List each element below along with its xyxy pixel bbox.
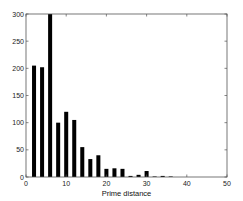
bar-16	[88, 159, 92, 177]
x-tick-label: 10	[62, 180, 70, 187]
bars-group	[32, 14, 173, 177]
bar-8	[56, 123, 60, 177]
y-tick-label: 200	[12, 65, 24, 72]
bar-6	[48, 14, 52, 177]
y-tick-label: 250	[12, 38, 24, 45]
bar-2	[32, 66, 36, 177]
x-tick-label: 50	[223, 180, 231, 187]
x-tick-label: 40	[183, 180, 191, 187]
bar-10	[64, 112, 68, 177]
y-tick-label: 100	[12, 119, 24, 126]
y-tick-label: 150	[12, 92, 24, 99]
y-tick-label: 50	[16, 146, 24, 153]
bar-24	[120, 169, 124, 177]
bar-22	[112, 168, 116, 177]
x-tick-label: 30	[143, 180, 151, 187]
x-tick-label: 0	[24, 180, 28, 187]
x-tick-label: 20	[103, 180, 111, 187]
histogram-chart: 050100150200250300 01020304050 Prime dis…	[0, 0, 243, 201]
bar-12	[72, 120, 76, 177]
y-tick-label: 300	[12, 11, 24, 18]
bar-14	[80, 147, 84, 177]
y-axis-ticks: 050100150200250300	[12, 11, 227, 181]
bar-18	[96, 155, 100, 177]
x-axis-ticks: 01020304050	[24, 14, 231, 187]
bar-4	[40, 67, 44, 177]
x-axis-label: Prime distance	[102, 189, 152, 198]
